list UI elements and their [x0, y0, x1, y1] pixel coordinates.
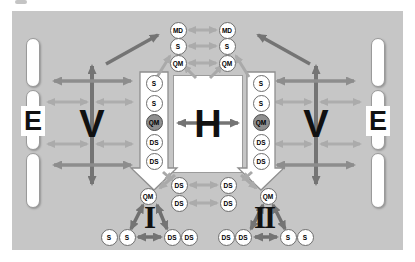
- node-qm: QM: [260, 188, 277, 205]
- node-s: S: [146, 75, 163, 92]
- node-ds: DS: [171, 177, 188, 194]
- node-s: S: [297, 229, 314, 246]
- h-label: H: [188, 104, 228, 144]
- node-s: S: [253, 75, 270, 92]
- node-qm-dark: QM: [146, 114, 163, 131]
- node-ds: DS: [235, 229, 252, 246]
- pill-left-top: [26, 38, 40, 87]
- node-qm: QM: [219, 55, 236, 72]
- node-s: S: [146, 95, 163, 112]
- node-s: S: [280, 229, 297, 246]
- node-s: S: [219, 38, 236, 55]
- pill-left-bottom: [26, 153, 40, 208]
- pill-right-top: [371, 38, 385, 87]
- node-ds: DS: [220, 177, 237, 194]
- node-qm-dark: QM: [253, 114, 270, 131]
- node-ds: DS: [164, 229, 181, 246]
- node-ds: DS: [146, 153, 163, 170]
- node-ds: DS: [146, 134, 163, 151]
- node-s: S: [101, 229, 118, 246]
- node-qm: QM: [140, 188, 157, 205]
- node-s: S: [253, 95, 270, 112]
- pill-right-bottom: [371, 153, 385, 208]
- node-ds: DS: [218, 229, 235, 246]
- scan-artifact: [15, 0, 27, 4]
- node-ds: DS: [253, 134, 270, 151]
- node-md: MD: [219, 22, 236, 39]
- numeral-one: I: [135, 203, 165, 233]
- node-ds: DS: [253, 153, 270, 170]
- node-ds: DS: [171, 195, 188, 212]
- node-md: MD: [170, 22, 187, 39]
- node-s: S: [119, 229, 136, 246]
- node-qm: QM: [170, 55, 187, 72]
- v-label-left: V: [72, 104, 112, 144]
- e-label-left: E: [21, 106, 45, 136]
- node-ds: DS: [181, 229, 198, 246]
- e-label-right: E: [366, 106, 390, 136]
- figure: E E V V H I II MD S QM MD S QM S S QM DS…: [0, 0, 415, 262]
- node-ds: DS: [220, 195, 237, 212]
- numeral-two: II: [249, 203, 279, 233]
- v-label-right: V: [296, 104, 336, 144]
- node-s: S: [170, 38, 187, 55]
